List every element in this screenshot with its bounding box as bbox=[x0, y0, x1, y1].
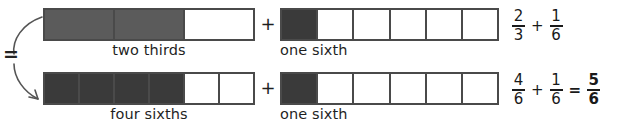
four-sixths-strip bbox=[43, 72, 255, 105]
fraction-numerator: 4 bbox=[514, 73, 524, 89]
four-sixths-caption: four sixths bbox=[43, 106, 255, 122]
row-bottom-plus-operator: + bbox=[259, 77, 277, 99]
equation-plus-operator: + bbox=[530, 83, 545, 98]
strip-cell bbox=[427, 74, 463, 103]
strip-cell bbox=[391, 10, 427, 39]
strip-cell bbox=[115, 74, 150, 103]
strip-cell bbox=[318, 74, 354, 103]
strip-cell bbox=[282, 74, 318, 103]
fraction-denominator: 3 bbox=[514, 27, 524, 43]
one-sixth-caption-top: one sixth bbox=[280, 42, 404, 58]
strip-cell bbox=[427, 10, 463, 39]
fraction-denominator: 6 bbox=[514, 91, 524, 107]
fraction-two-thirds: 2 3 bbox=[512, 9, 525, 43]
strip-cell bbox=[45, 74, 80, 103]
strip-cell bbox=[282, 10, 318, 39]
equation-equals-operator: = bbox=[568, 83, 583, 98]
fraction-denominator: 6 bbox=[551, 91, 561, 107]
fraction-one-sixth: 1 6 bbox=[550, 73, 563, 107]
two-thirds-strip bbox=[43, 8, 255, 41]
fraction-numerator: 5 bbox=[588, 73, 598, 89]
fraction-numerator: 2 bbox=[514, 9, 524, 25]
strip-cell bbox=[220, 74, 253, 103]
one-sixth-strip-top bbox=[280, 8, 499, 41]
strip-cell bbox=[80, 74, 115, 103]
strip-cell bbox=[463, 74, 497, 103]
fraction-numerator: 1 bbox=[551, 73, 561, 89]
row-top-plus-operator: + bbox=[259, 13, 277, 35]
strip-cell bbox=[318, 10, 354, 39]
fraction-four-sixths: 4 6 bbox=[512, 73, 525, 107]
fraction-denominator: 6 bbox=[588, 91, 598, 107]
strip-cell bbox=[115, 10, 185, 39]
fraction-denominator: 6 bbox=[551, 27, 561, 43]
strip-cell bbox=[354, 10, 390, 39]
one-sixth-caption-bottom: one sixth bbox=[280, 106, 404, 122]
figure-canvas: = two thirds + one sixth 2 3 + bbox=[0, 0, 620, 137]
fraction-numerator: 1 bbox=[551, 9, 561, 25]
strip-cell bbox=[185, 10, 253, 39]
one-sixth-strip-bottom bbox=[280, 72, 499, 105]
fraction-result-five-sixths: 5 6 bbox=[587, 73, 600, 107]
strip-cell bbox=[185, 74, 220, 103]
strip-cell bbox=[150, 74, 185, 103]
two-thirds-caption: two thirds bbox=[43, 42, 255, 58]
equation-top: 2 3 + 1 6 bbox=[512, 6, 563, 46]
strip-cell bbox=[45, 10, 115, 39]
strip-cell bbox=[391, 74, 427, 103]
row-bottom: four sixths + one sixth 4 6 + 1 6 = bbox=[0, 68, 620, 132]
row-top: two thirds + one sixth 2 3 + 1 6 bbox=[0, 4, 620, 68]
equation-plus-operator: + bbox=[530, 19, 545, 34]
strip-cell bbox=[463, 10, 497, 39]
equation-bottom: 4 6 + 1 6 = 5 6 bbox=[512, 70, 600, 110]
fraction-one-sixth: 1 6 bbox=[550, 9, 563, 43]
strip-cell bbox=[354, 74, 390, 103]
